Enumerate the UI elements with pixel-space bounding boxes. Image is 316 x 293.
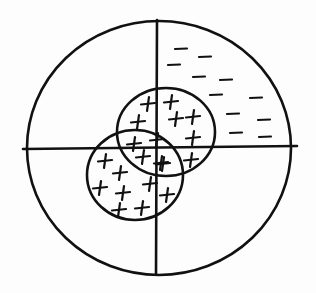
minus-sign [250, 98, 262, 99]
plus-sign [113, 166, 127, 180]
minus-sign [227, 114, 239, 115]
plus-sign [164, 95, 178, 109]
plus-sign [98, 154, 112, 168]
plus-sign [143, 177, 157, 191]
plus-sign [160, 188, 174, 202]
plus-sign [135, 201, 149, 215]
minus-sign [168, 65, 180, 66]
plus-sign [93, 181, 107, 195]
minus-sign [193, 77, 205, 78]
plus-signs-group [93, 95, 200, 217]
plus-sign [186, 131, 200, 145]
plus-sign [186, 110, 200, 124]
minus-sign [210, 95, 222, 96]
plus-sign [141, 97, 155, 111]
plus-sign [169, 112, 183, 126]
venn-quadrant-diagram [0, 0, 316, 293]
plus-sign [131, 115, 145, 129]
plus-sign [150, 133, 164, 147]
horizontal-axis [23, 146, 297, 149]
minus-sign [175, 49, 187, 50]
minus-sign [259, 137, 271, 138]
minus-sign [258, 120, 270, 121]
minus-sign [230, 133, 242, 134]
minus-sign [220, 80, 232, 81]
diagram-canvas [0, 0, 316, 293]
plus-sign [116, 186, 130, 200]
plus-sign [136, 150, 150, 164]
minus-sign [199, 57, 211, 58]
plus-sign [184, 153, 198, 167]
